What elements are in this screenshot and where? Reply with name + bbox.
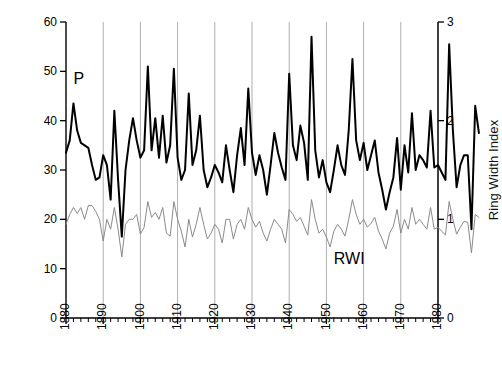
series-line-rwi — [66, 200, 479, 257]
x-axis-ticks: 1880189019001910192019301940195019601970… — [58, 303, 444, 330]
y-tick-left-label: 50 — [44, 64, 58, 78]
rwi-label: RWI — [334, 250, 365, 267]
x-tick-label: 1970 — [393, 303, 407, 330]
y-tick-right-label: 0 — [447, 311, 454, 325]
x-tick-label: 1900 — [133, 303, 147, 330]
y-axis-left-ticks: 0102030405060 — [44, 15, 66, 325]
precipitation-rwi-chart: August–July Precipitation (cm) Ring Widt… — [0, 0, 502, 389]
x-tick-label: 1960 — [356, 303, 370, 330]
y-tick-left-label: 10 — [44, 262, 58, 276]
x-tick-label: 1950 — [319, 303, 333, 330]
x-tick-label: 1980 — [430, 303, 444, 330]
y-tick-right-label: 3 — [447, 15, 454, 29]
plot-canvas: 1880189019001910192019301940195019601970… — [0, 0, 502, 389]
y-tick-left-label: 60 — [44, 15, 58, 29]
y-tick-left-label: 20 — [44, 212, 58, 226]
y-tick-left-label: 30 — [44, 163, 58, 177]
y-tick-left-label: 0 — [50, 311, 57, 325]
data-series-layer — [66, 37, 479, 257]
x-tick-label: 1910 — [170, 303, 184, 330]
y-tick-left-label: 40 — [44, 114, 58, 128]
precipitation-label: P — [73, 70, 84, 87]
x-tick-label: 1940 — [281, 303, 295, 330]
x-tick-label: 1880 — [58, 303, 72, 330]
series-line-p — [66, 37, 479, 237]
x-tick-label: 1890 — [95, 303, 109, 330]
x-tick-label: 1930 — [244, 303, 258, 330]
x-tick-label: 1920 — [207, 303, 221, 330]
